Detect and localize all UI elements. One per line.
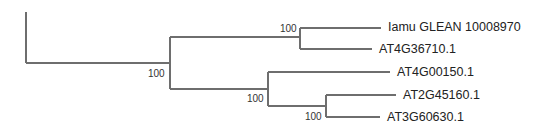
leaf-label-at4g00150: AT4G00150.1 xyxy=(397,65,474,79)
leaf-label-at2g45160: AT2G45160.1 xyxy=(403,88,480,102)
bootstrap-clade-glean: 100 xyxy=(280,23,297,35)
leaf-label-glean: Iamu GLEAN 10008970 xyxy=(388,20,521,34)
bootstrap-root-split: 100 xyxy=(148,68,165,80)
bootstrap-clade-at4g00150: 100 xyxy=(247,93,264,105)
bootstrap-clade-at2g45160: 100 xyxy=(305,111,322,123)
leaf-label-at3g60630: AT3G60630.1 xyxy=(387,110,464,124)
leaf-label-at4g36710: AT4G36710.1 xyxy=(379,42,456,56)
